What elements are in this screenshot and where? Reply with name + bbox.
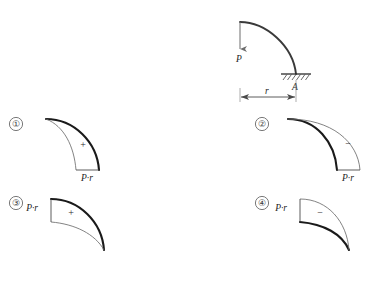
radius-dimension: r [240,80,296,102]
main-diagram-group: P A r [235,22,311,102]
curved-beam-arc [240,22,296,74]
option-3-moment-label: P·r [25,203,38,213]
support-label-A: A [291,82,298,92]
option-3-group[interactable]: ③ + P·r [9,196,104,250]
option-4-moment-label: P·r [274,203,287,213]
load-label-P: P [235,54,242,64]
option-1-sign: + [80,139,86,150]
option-3-sign: + [68,207,74,218]
option-3-number: ③ [12,198,20,208]
option-2-inner-arc [288,119,337,170]
option-4-group[interactable]: ④ − P·r [255,196,349,250]
figure-svg: P A r ① + [0,0,388,283]
option-1-number: ① [12,119,20,129]
option-1-group[interactable]: ① + P·r [9,117,99,183]
option-4-number: ④ [258,198,266,208]
option-2-number: ② [258,119,266,129]
radius-label-r: r [265,86,269,96]
option-1-moment-label: P·r [80,173,93,183]
figure-canvas: P A r ① + [0,0,388,283]
option-2-group[interactable]: ② − P·r [255,117,360,183]
option-2-sign: − [345,138,351,149]
option-2-moment-label: P·r [341,173,354,183]
support-hatching [283,74,310,80]
option-4-sign: − [317,207,323,218]
